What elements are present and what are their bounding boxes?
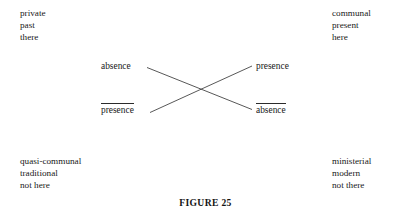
corner-term: communal [332,7,371,19]
corner-term: there [20,31,46,43]
corner-term: not there [332,179,371,191]
corner-term: here [332,31,371,43]
diagonal-upperleft-to-lowerright [147,68,252,110]
figure-caption: FIGURE 25 [0,197,411,208]
corner-terms-top-left: private past there [20,7,46,43]
corner-term: present [332,19,371,31]
corner-term: modern [332,167,371,179]
figure-container: private past there communal present here… [0,0,411,217]
corner-term: private [20,7,46,19]
diagonal-lowerleft-to-upperright [150,66,252,113]
corner-term: past [20,19,46,31]
node-label-text: presence [256,61,289,71]
node-label-lower-right-negated: absence [256,103,286,116]
corner-terms-bottom-right: ministerial modern not there [332,155,371,191]
corner-term: quasi-communal [20,155,81,167]
node-label-text: absence [256,103,286,116]
node-label-text: presence [101,103,134,116]
node-label-upper-right: presence [256,61,289,72]
node-label-text: absence [101,61,131,71]
node-label-upper-left: absence [101,61,131,72]
corner-term: not here [20,179,81,191]
node-label-lower-left-negated: presence [101,103,134,116]
corner-term: traditional [20,167,81,179]
corner-terms-bottom-left: quasi-communal traditional not here [20,155,81,191]
corner-terms-top-right: communal present here [332,7,371,43]
corner-term: ministerial [332,155,371,167]
